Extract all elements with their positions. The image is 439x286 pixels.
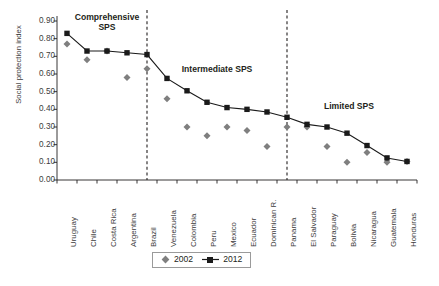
x-tick-label-dominican-r: Dominican R.	[270, 200, 278, 247]
x-tick-label-el-salvador: El Salvador	[310, 207, 318, 247]
limited-sps-label: Limited SPS	[304, 101, 394, 111]
x-tick-label-panama: Panama	[290, 218, 298, 247]
chart-figure: Social protection index 0.900.800.700.60…	[0, 0, 439, 286]
x-tick-label-mexico: Mexico	[230, 222, 238, 247]
x-tick-label-guatemala: Guatemala	[390, 208, 398, 247]
legend-item-2002[interactable]: 2002	[161, 255, 193, 264]
x-tick-label-colombia: Colombia	[190, 214, 198, 247]
comprehensive-sps-line1: Comprehensive	[47, 12, 167, 22]
legend-label-2002: 2002	[174, 255, 193, 264]
square-line-marker-icon	[202, 255, 219, 264]
diamond-marker-icon	[161, 255, 170, 264]
legend-label-2012: 2012	[223, 255, 242, 264]
x-tick-label-paraguay: Paraguay	[330, 213, 338, 247]
x-tick-label-brazil: Brazil	[150, 227, 158, 247]
x-tick-label-peru: Peru	[210, 230, 218, 247]
x-tick-label-bolivia: Bolivia	[350, 224, 358, 247]
x-tick-label-uruguay: Uruguay	[70, 217, 78, 247]
x-tick-label-argentina: Argentina	[130, 213, 138, 247]
x-tick-label-ecuador: Ecuador	[250, 218, 258, 247]
x-tick-label-nicaragua: Nicaragua	[370, 211, 378, 247]
x-tick-label-venezuela: Venezuela	[170, 210, 178, 247]
x-tick-label-costa-rica: Costa Rica	[110, 208, 118, 247]
intermediate-sps-label: Intermediate SPS	[162, 64, 272, 74]
legend-item-2012[interactable]: 2012	[202, 255, 242, 264]
chart-legend: 2002 2012	[152, 252, 251, 268]
comprehensive-sps-line2: SPS	[47, 22, 167, 32]
x-tick-label-chile: Chile	[90, 229, 98, 247]
x-axis-tick-labels: UruguayChileCosta RicaArgentinaBrazilVen…	[0, 0, 439, 250]
x-tick-label-honduras: Honduras	[410, 213, 418, 247]
comprehensive-sps-label: ComprehensiveSPS	[47, 12, 167, 32]
